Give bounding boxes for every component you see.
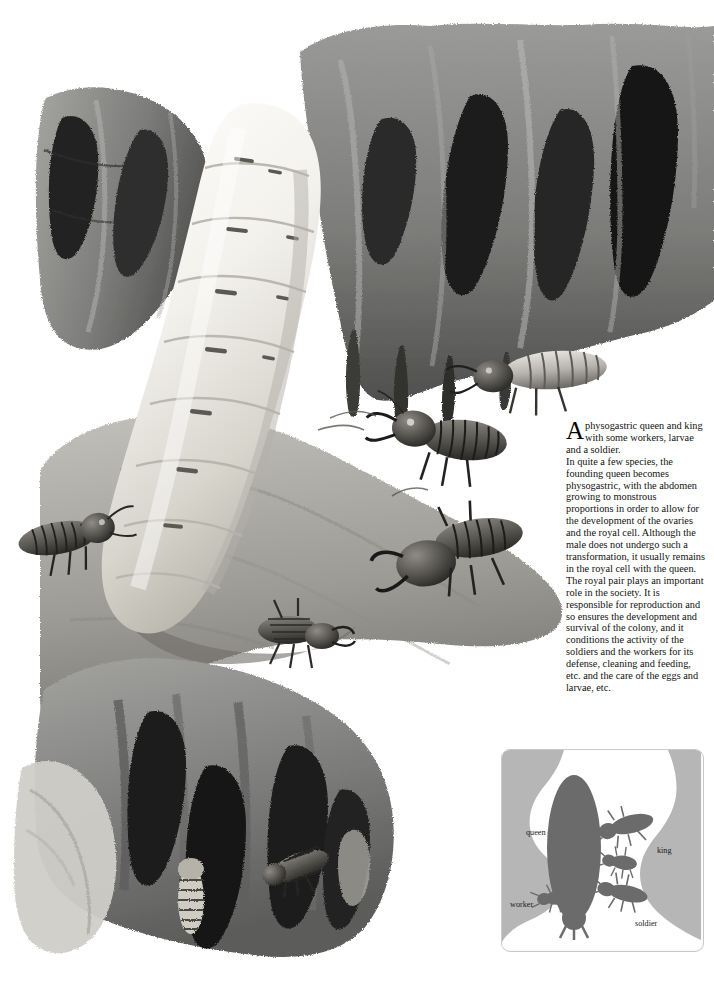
inset-label-soldier: soldier <box>635 919 657 928</box>
inset-label-worker: worker <box>510 900 533 909</box>
inset-label-king: king <box>657 846 672 855</box>
caption-paragraph-2: In quite a few species, the founding que… <box>566 456 706 694</box>
page-canvas: Aphysogastric queen and king with some w… <box>0 0 714 988</box>
drop-cap: A <box>566 420 585 441</box>
caption-paragraph-1: Aphysogastric queen and king with some w… <box>566 420 706 456</box>
royal-cell-schematic: queen king worker soldier <box>501 749 704 952</box>
caption-block: Aphysogastric queen and king with some w… <box>566 420 706 694</box>
inset-label-queen: queen <box>526 828 546 837</box>
caption-paragraph-1-text: physogastric queen and king with some wo… <box>566 420 703 455</box>
